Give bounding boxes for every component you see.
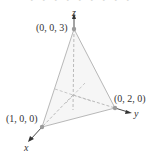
- point-0-2-0: [113, 106, 117, 110]
- x-axis: [31, 127, 42, 139]
- z-axis-label: z: [72, 8, 76, 18]
- y-axis-label: y: [134, 109, 138, 119]
- point-1-0-0: [40, 125, 44, 129]
- point-0-0-3: [72, 27, 76, 31]
- front-face: [42, 29, 115, 127]
- point-label-1-0-0: (1, 0, 0): [6, 114, 38, 124]
- y-arrow-icon: [125, 110, 132, 114]
- tetrahedron-diagram: [0, 0, 150, 156]
- point-label-0-0-3: (0, 0, 3): [36, 23, 68, 33]
- x-axis-label: x: [24, 143, 28, 153]
- point-label-0-2-0: (0, 2, 0): [114, 94, 146, 104]
